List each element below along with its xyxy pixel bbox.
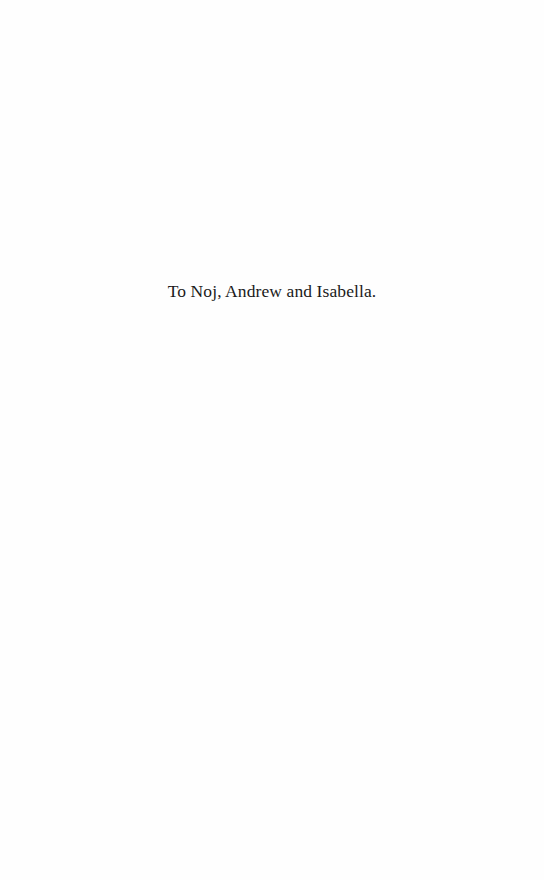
- dedication-text: To Noj, Andrew and Isabella.: [0, 281, 544, 302]
- document-page: To Noj, Andrew and Isabella.: [0, 0, 544, 880]
